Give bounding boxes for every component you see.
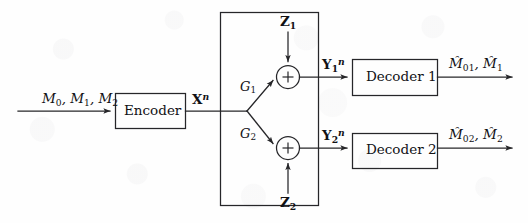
gain2-label: G2 <box>240 127 256 142</box>
decoder1-label: Decoder 1 <box>366 70 436 84</box>
decoder2-label: Decoder 2 <box>366 143 436 157</box>
block-diagram-graphics <box>0 0 528 223</box>
estimate1-label: M̂01, M̂1 <box>449 57 503 72</box>
received2-label: Y2n <box>322 128 345 144</box>
gain1-label: G1 <box>240 80 256 95</box>
input-messages-label: M0, M1, M2 <box>42 92 118 107</box>
estimate2-label: M̂02, M̂2 <box>449 128 503 143</box>
channel-boundary-box <box>221 13 319 206</box>
noise2-label: Z2 <box>280 196 296 211</box>
received1-label: Y1n <box>322 57 345 73</box>
figure-canvas: M0, M1, M2 Encoder Xn G1 G2 Z1 Z2 Y1n Y2… <box>0 0 528 223</box>
noise1-label: Z1 <box>280 15 296 30</box>
encoder-label: Encoder <box>124 104 181 118</box>
codeword-label: Xn <box>192 92 209 107</box>
